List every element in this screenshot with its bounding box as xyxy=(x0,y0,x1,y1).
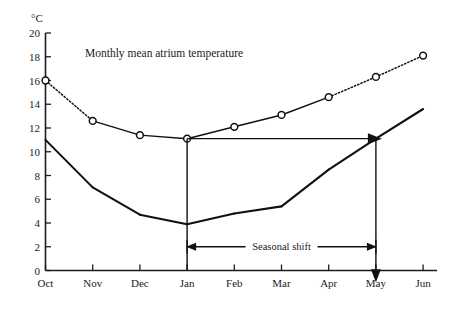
axis-lines xyxy=(46,33,438,271)
series-segment xyxy=(282,97,329,115)
series-segment xyxy=(329,77,376,97)
series-segment xyxy=(187,214,234,225)
series-segment xyxy=(140,135,187,139)
data-point-marker xyxy=(373,74,380,81)
x-tick-label: Feb xyxy=(226,277,243,289)
y-axis-ticks: 02468101214161820 xyxy=(29,27,51,277)
y-tick-label: 2 xyxy=(35,241,41,253)
x-tick-label: Nov xyxy=(83,277,102,289)
x-tick-label: Dec xyxy=(131,277,149,289)
series-segment xyxy=(93,121,140,135)
series-segment xyxy=(376,109,423,139)
x-tick-label: Oct xyxy=(38,277,54,289)
data-point-marker xyxy=(325,94,332,101)
seasonal-shift-label: Seasonal shift xyxy=(252,241,311,252)
series-segment xyxy=(93,187,140,214)
series-segment xyxy=(187,127,234,139)
series-segment xyxy=(376,56,423,77)
x-tick-label: Apr xyxy=(320,277,337,289)
series-segment xyxy=(234,115,281,127)
data-point-marker xyxy=(420,52,427,59)
data-point-marker xyxy=(89,117,96,124)
series-segment xyxy=(234,206,281,213)
y-tick-label: 20 xyxy=(29,27,41,39)
y-tick-label: 12 xyxy=(29,122,40,134)
series-segment xyxy=(282,170,329,207)
y-tick-label: 16 xyxy=(29,75,41,87)
temperature-line-chart: °C Monthly mean atrium temperature 02468… xyxy=(0,0,449,313)
y-tick-label: 14 xyxy=(29,98,41,110)
chart-figure: °C Monthly mean atrium temperature 02468… xyxy=(0,0,449,313)
annotation-layer: Seasonal shift xyxy=(186,133,382,282)
series-segment xyxy=(46,140,93,188)
data-point-marker xyxy=(42,77,49,84)
series-segment xyxy=(140,215,187,225)
y-tick-label: 0 xyxy=(35,265,41,277)
y-tick-label: 4 xyxy=(35,217,41,229)
series-segment xyxy=(46,81,93,121)
y-tick-label: 18 xyxy=(29,51,41,63)
x-tick-label: Mar xyxy=(272,277,291,289)
y-tick-label: 6 xyxy=(35,193,41,205)
x-axis-ticks: OctNovDecJanFebMarAprMayJun xyxy=(38,265,432,289)
horizontal-shift-arrowhead xyxy=(368,133,382,144)
y-tick-label: 10 xyxy=(29,146,41,158)
x-tick-label: Jun xyxy=(415,277,431,289)
data-point-marker xyxy=(231,123,238,130)
y-axis-unit-label: °C xyxy=(31,12,43,24)
data-point-marker xyxy=(137,132,144,139)
chart-title: Monthly mean atrium temperature xyxy=(85,47,243,60)
data-point-marker xyxy=(278,112,285,119)
y-tick-label: 8 xyxy=(35,170,41,182)
x-tick-label: Jan xyxy=(180,277,195,289)
data-series xyxy=(42,52,426,142)
